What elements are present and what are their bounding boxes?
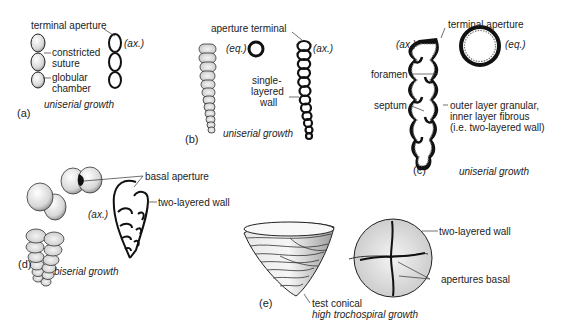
panel-label-a: (a)	[17, 108, 30, 119]
label-c-wall-line1: outer layer granular,	[450, 100, 539, 111]
panel-c-axial-section	[408, 38, 439, 170]
panel-a-external-view	[31, 34, 45, 88]
panel-d-axial-section	[114, 181, 148, 258]
panel-b-equatorial-section	[249, 42, 263, 56]
panel-d-apertural-view	[61, 167, 102, 194]
label-e-apertures-basal: apertures basal	[441, 274, 510, 285]
label-c-axial-section: (ax.)	[396, 39, 416, 50]
label-d-basal-aperture: basal aperture	[145, 171, 209, 182]
panel-e-umbilical-view	[349, 219, 432, 297]
label-e-growth: high trochospiral growth	[312, 309, 418, 320]
panel-label-e: (e)	[259, 298, 272, 309]
panel-label-d: (d)	[18, 259, 31, 270]
label-c-equatorial-section: (eq.)	[505, 39, 526, 50]
label-a-globular: globular	[52, 72, 88, 83]
label-b-aperture-terminal: aperture terminal	[211, 23, 287, 34]
label-e-test-conical: test conical	[312, 298, 362, 309]
label-c-wall-line3: (i.e. two-layered wall)	[450, 122, 544, 133]
label-b-layered: layered	[251, 86, 284, 97]
label-b-axial-section: (ax.)	[313, 43, 333, 54]
label-e-two-layered-wall: two-layered wall	[439, 226, 511, 237]
label-b-single: single-	[252, 75, 281, 86]
panel-c-equatorial-section	[461, 27, 499, 65]
label-b-equatorial-section: (eq.)	[226, 43, 247, 54]
label-c-wall-line2: inner layer fibrous	[450, 111, 529, 122]
label-a-growth: uniserial growth	[44, 99, 114, 110]
panel-b-axial-section	[298, 41, 313, 139]
label-a-chamber: chamber	[52, 83, 91, 94]
label-d-growth: biserial growth	[54, 266, 118, 277]
label-a-terminal-aperture: terminal aperture	[31, 20, 107, 31]
label-b-growth: uniserial growth	[223, 128, 293, 139]
label-c-terminal-aperture: terminal aperture	[448, 19, 524, 30]
panel-a-axial-section	[109, 34, 121, 88]
label-a-suture: suture	[52, 58, 80, 69]
label-c-foramen: foramen	[371, 69, 408, 80]
label-c-septum: septum	[374, 100, 407, 111]
label-c-growth: uniserial growth	[459, 166, 529, 177]
panel-label-b: (b)	[185, 134, 198, 145]
panel-e-conical-test	[244, 222, 334, 296]
label-d-two-layered-wall: two-layered wall	[158, 197, 230, 208]
label-a-axial-section: (ax.)	[124, 38, 144, 49]
label-d-axial-section: (ax.)	[88, 209, 108, 220]
panel-b-external-view	[199, 44, 216, 133]
label-a-constricted: constricted	[52, 47, 100, 58]
label-b-wall: wall	[260, 97, 277, 108]
panel-label-c: (c)	[413, 165, 426, 176]
